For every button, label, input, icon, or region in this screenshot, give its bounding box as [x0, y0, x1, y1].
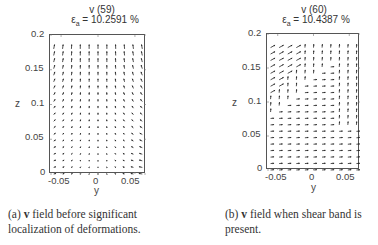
- xtick-0.05: 0.05: [121, 176, 140, 186]
- ytick-0.2: 0.2: [248, 28, 261, 38]
- plot-title-line2: εa = 10.4387 %: [271, 15, 361, 29]
- xlabel-y: y: [311, 183, 316, 193]
- ytick-0.15: 0.15: [25, 63, 44, 73]
- plot-title-line2: εa = 10.2591 %: [60, 15, 150, 29]
- caption-b: (b) v field when shear band is present.: [225, 207, 375, 237]
- quiver-field-b: [267, 34, 360, 170]
- quiver-axes-a: [49, 34, 145, 173]
- ytick-0.2: 0.2: [31, 29, 44, 39]
- ytick-0.05: 0.05: [25, 132, 44, 142]
- quiver-axes-b: [266, 33, 359, 169]
- ytick-0.1: 0.1: [248, 96, 261, 106]
- quiver-field-a: [50, 35, 146, 174]
- strain-value: = 10.2591 %: [80, 14, 139, 25]
- xtick-0.05: 0.05: [336, 172, 355, 182]
- ytick-0.05: 0.05: [242, 129, 261, 139]
- xtick-0: 0: [309, 172, 314, 182]
- strain-value: = 10.4387 %: [291, 14, 350, 25]
- caption-label: (a): [8, 208, 21, 220]
- ytick-0.1: 0.1: [31, 98, 44, 108]
- xtick-neg0.05: -0.05: [265, 172, 287, 182]
- caption-a: (a) v field before significant localizat…: [8, 207, 188, 237]
- ylabel-z: z: [15, 99, 20, 109]
- ytick-0: 0: [40, 167, 45, 177]
- xtick-neg0.05: -0.05: [48, 176, 70, 186]
- xlabel-y: y: [94, 186, 99, 196]
- ytick-0: 0: [257, 163, 262, 173]
- caption-label: (b): [225, 208, 238, 220]
- ylabel-z: z: [232, 98, 237, 108]
- ytick-0.15: 0.15: [242, 62, 261, 72]
